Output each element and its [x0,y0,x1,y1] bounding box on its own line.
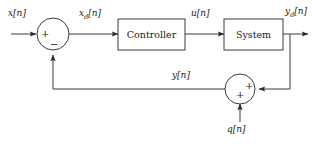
signal-label-feedback: y[n] [172,70,190,80]
signal-label-noise: q[n] [227,124,246,134]
error-summer-minus-sign: − [50,40,58,50]
noise-summer-plus-sign-bottom: + [236,90,244,100]
signal-label-error: xd[n] [79,8,101,21]
wire-output-branch [259,34,290,89]
controller-block-label: Controller [118,29,185,40]
diagram-canvas [0,0,312,146]
wire-feedback [53,55,225,89]
signal-label-control: u[n] [191,8,210,18]
signal-label-input: x[n] [8,8,26,18]
block-diagram: Controller System + − + + x[n] xd[n] u[n… [0,0,312,146]
error-summer-plus-sign: + [41,29,49,39]
signal-label-output: yd[n] [285,6,307,19]
system-block-label: System [224,29,283,40]
noise-summer-plus-sign-right: + [245,81,253,91]
